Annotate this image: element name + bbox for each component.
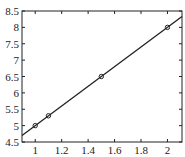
y-tick-label: 4.5 — [5, 136, 19, 148]
y-tick-label: 5 — [14, 120, 20, 132]
y-tick-label: 5.5 — [5, 103, 19, 115]
y-tick-label: 8 — [14, 21, 20, 33]
x-axis-label: t — [100, 156, 104, 157]
y-tick-label: 6 — [14, 87, 20, 99]
fit-line — [22, 17, 182, 136]
y-tick-label: 7 — [14, 54, 20, 66]
x-tick-label: 1.6 — [108, 144, 122, 156]
y-tick-label: 8.5 — [5, 5, 19, 17]
x-tick-label: 1 — [32, 144, 38, 156]
x-tick-label: 2 — [165, 144, 171, 156]
y-tick-label: 7.5 — [5, 38, 19, 50]
chart: 11.21.41.61.824.555.566.577.588.5t — [0, 0, 185, 157]
y-tick-label: 6.5 — [5, 71, 19, 83]
x-tick-label: 1.8 — [134, 144, 148, 156]
x-tick-label: 1.2 — [55, 144, 69, 156]
x-tick-label: 1.4 — [81, 144, 95, 156]
